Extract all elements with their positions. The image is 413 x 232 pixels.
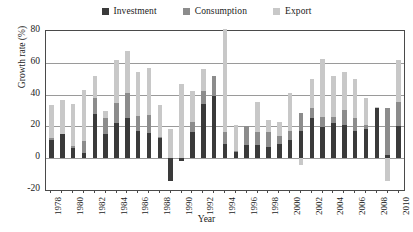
bar-segment-consumption (396, 102, 401, 126)
bar-column (71, 31, 76, 190)
bar-segment-investment (168, 158, 173, 181)
bar-segment-consumption (364, 125, 369, 129)
bar-segment-investment (82, 153, 87, 159)
bar-segment-consumption (342, 110, 347, 125)
bar-segment-investment (234, 152, 239, 158)
bar-segment-investment (331, 123, 336, 158)
bar-segment-export (60, 100, 65, 133)
bar-segment-investment (353, 131, 358, 158)
bar-column (288, 31, 293, 190)
y-axis-tick-label: 20 (4, 120, 40, 130)
bar-segment-investment (60, 134, 65, 159)
x-axis-tick-label: 2006 (358, 197, 367, 215)
bar-segment-investment (93, 114, 98, 159)
x-axis-tick-mark (213, 190, 214, 193)
bar-segment-export (331, 76, 336, 117)
bar-column (244, 31, 249, 190)
x-axis-title: Year (0, 214, 413, 224)
x-axis-tick-mark (105, 190, 106, 193)
bar-column (277, 31, 282, 190)
bar-segment-export (158, 105, 163, 137)
bar-segment-export (396, 60, 401, 101)
bar-segment-export (255, 102, 260, 132)
bar-segment-consumption (82, 141, 87, 153)
x-axis-tick-label: 1990 (185, 197, 194, 215)
bar-segment-consumption (385, 108, 390, 155)
bar-segment-consumption (71, 146, 76, 148)
bar-segment-consumption (255, 132, 260, 146)
bar-segment-consumption (234, 151, 239, 152)
x-axis-tick-mark (278, 190, 279, 193)
x-axis-tick-label: 1998 (271, 197, 280, 215)
bar-segment-consumption (375, 107, 380, 108)
bar-segment-export (288, 93, 293, 131)
x-axis-tick-mark (246, 190, 247, 193)
bar-segment-investment (223, 144, 228, 158)
x-axis-tick-mark (235, 190, 236, 193)
bar-segment-investment (310, 118, 315, 158)
bar-segment-export (190, 91, 195, 122)
bar-segment-export (277, 122, 282, 136)
bar-column (353, 31, 358, 190)
bar-segment-investment (299, 131, 304, 158)
bar-segment-investment (266, 147, 271, 158)
bar-segment-export (320, 59, 325, 117)
bar-segment-export (234, 125, 239, 151)
bar-segment-export (168, 129, 173, 158)
bar-segment-export (299, 158, 304, 165)
bar-segment-export (364, 98, 369, 125)
legend-entry-export: Export (273, 6, 311, 16)
bar-segment-consumption (244, 126, 249, 145)
x-axis-tick-label: 2004 (336, 197, 345, 215)
x-axis-tick-mark (116, 190, 117, 193)
bar-column (136, 31, 141, 190)
bar-series-container (46, 31, 404, 190)
bar-segment-investment (136, 131, 141, 158)
x-axis-tick-label: 1982 (98, 197, 107, 215)
bar-segment-investment (49, 140, 54, 158)
legend-swatch-investment (102, 8, 109, 15)
bar-segment-export (353, 79, 358, 118)
bar-segment-consumption (201, 91, 206, 105)
bar-column (212, 31, 217, 190)
y-axis-tick-label: 40 (4, 89, 40, 99)
bar-segment-export (147, 68, 152, 115)
bar-segment-consumption (353, 118, 358, 132)
bar-segment-export (125, 51, 130, 93)
x-axis-tick-mark (202, 190, 203, 193)
x-axis-tick-mark (181, 190, 182, 193)
bar-segment-investment (179, 158, 184, 161)
bar-segment-investment (114, 123, 119, 158)
x-axis-tick-mark (224, 190, 225, 193)
legend-label-consumption: Consumption (195, 6, 247, 16)
bar-segment-export (71, 104, 76, 146)
bar-segment-investment (201, 104, 206, 158)
bar-segment-consumption (190, 122, 195, 132)
bar-column (147, 31, 152, 190)
bar-segment-consumption (320, 117, 325, 127)
x-axis-tick-mark (72, 190, 73, 193)
bar-segment-consumption (277, 136, 282, 144)
x-axis-tick-label: 1986 (141, 197, 150, 215)
bar-column (93, 31, 98, 190)
bar-segment-export (310, 79, 315, 108)
legend-label-investment: Investment (114, 6, 157, 16)
bar-segment-investment (103, 134, 108, 158)
x-axis-tick-mark (387, 190, 388, 193)
x-axis-tick-labels: 1978198019821984198619881990199219941996… (45, 190, 403, 216)
x-axis-tick-mark (343, 190, 344, 193)
bar-column (385, 31, 390, 190)
bar-column (114, 31, 119, 190)
bar-segment-investment (342, 125, 347, 158)
legend-label-export: Export (285, 6, 311, 16)
x-axis-tick-label: 1984 (120, 197, 129, 215)
bar-segment-investment (190, 132, 195, 158)
bar-segment-export (103, 111, 108, 118)
bar-segment-consumption (331, 117, 336, 123)
bar-segment-export (179, 84, 184, 158)
bar-column (396, 31, 401, 190)
x-axis-tick-label: 1996 (250, 197, 259, 215)
bar-segment-consumption (93, 98, 98, 114)
x-axis-tick-label: 2008 (380, 197, 389, 215)
x-axis-tick-mark (311, 190, 312, 193)
